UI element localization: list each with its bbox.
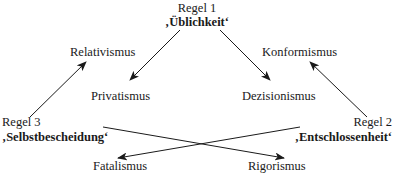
arrow-regel2-konformismus [310,62,367,117]
regel2-label: Regel 2 [353,115,392,129]
regel3-label: Regel 3 [2,115,41,129]
arrow-regel3-relativismus [30,62,86,117]
node-fatalismus: Fatalismus [93,159,147,173]
node-dezisionismus: Dezisionismus [242,89,316,103]
node-konformismus: Konformismus [262,45,337,59]
regel2-name: ‚Entschlossenheit‘ [295,130,392,144]
regel1-label: Regel 1 [178,1,217,15]
node-relativismus: Relativismus [70,45,135,59]
regel1-name: ‚Üblichkeit‘ [165,15,229,29]
arrow-regel3-rigorismus [103,127,284,158]
arrow-regel2-fatalismus [118,127,300,158]
regel3-name: ‚Selbstbescheidung‘ [2,130,108,144]
arrow-regel1-privatismus [130,30,180,80]
node-privatismus: Privatismus [91,89,150,103]
node-rigorismus: Rigorismus [248,159,306,173]
